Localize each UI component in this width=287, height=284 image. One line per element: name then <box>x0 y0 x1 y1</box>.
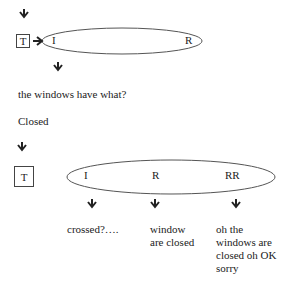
arrow-down-icon <box>20 9 28 17</box>
response-line: crossed?…. <box>67 223 119 236</box>
response-window-closed: window are closed <box>150 223 194 249</box>
bottom-t-label: T <box>21 171 28 183</box>
response-line: window <box>150 223 194 236</box>
response-crossed: crossed?…. <box>67 223 119 236</box>
arrow-down-icon <box>151 199 159 207</box>
arrow-down-icon <box>18 142 26 150</box>
response-line: oh the <box>216 223 277 236</box>
response-line: are closed <box>150 236 194 249</box>
arrow-right-icon <box>33 37 42 45</box>
bottom-ellipse-label-i: I <box>84 169 88 181</box>
bottom-ellipse-label-rr: RR <box>225 169 240 181</box>
top-ellipse-label-r: R <box>185 34 192 46</box>
top-ellipse <box>42 28 202 54</box>
top-t-box: T <box>16 34 30 48</box>
response-oh-the-windows: oh the windows are closed oh OK sorry <box>216 223 277 275</box>
response-line: closed oh OK <box>216 249 277 262</box>
response-line: sorry <box>216 262 277 275</box>
question-text: the windows have what? <box>18 88 126 101</box>
arrow-down-icon <box>54 62 62 70</box>
arrow-down-icon <box>88 199 96 207</box>
bottom-ellipse-label-r: R <box>152 169 159 181</box>
answer-text: Closed <box>18 115 49 128</box>
top-ellipse-label-i: I <box>52 34 56 46</box>
arrow-down-icon <box>232 199 240 207</box>
response-line: windows are <box>216 236 277 249</box>
bottom-t-box: T <box>14 166 34 187</box>
bottom-ellipse <box>67 160 275 194</box>
top-t-label: T <box>20 35 27 47</box>
